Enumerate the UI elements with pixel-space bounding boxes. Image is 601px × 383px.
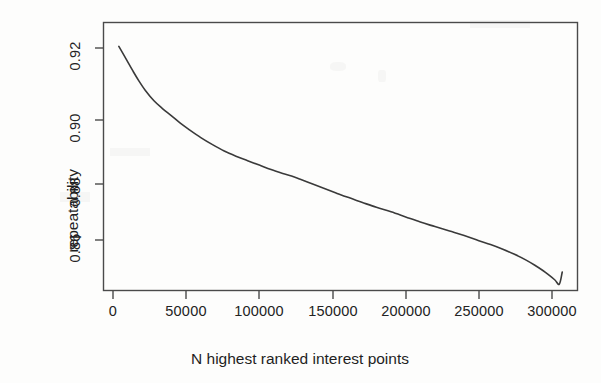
repeatability-line-chart [0,0,601,383]
x-tick-label-150000: 150000 [308,303,358,319]
x-tick-label-200000: 200000 [381,303,431,319]
x-tick-label-300000: 300000 [527,303,577,319]
y-axis-title: repeatability [64,169,82,253]
y-axis-ticks [95,48,104,240]
x-axis-ticks [113,291,552,300]
x-axis-title: N highest ranked interest points [191,350,409,368]
y-tick-label-0-92: 0.92 [67,41,83,70]
x-tick-label-250000: 250000 [454,303,504,319]
x-tick-label-0: 0 [109,303,117,319]
x-tick-label-100000: 100000 [234,303,284,319]
figure-page: 0 50000 100000 150000 200000 250000 3000… [0,0,601,383]
x-tick-label-50000: 50000 [165,303,206,319]
y-tick-label-0-90: 0.90 [67,113,83,142]
data-series-line [119,46,562,284]
